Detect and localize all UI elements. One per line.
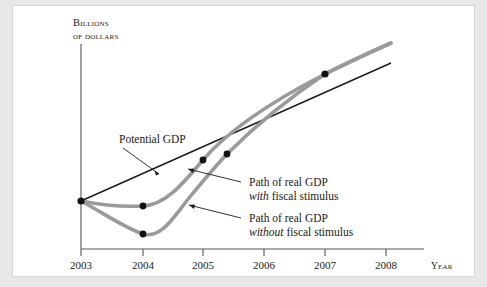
annotation-without-stimulus-line1: Path of real GDP [249, 212, 328, 224]
marker-2005-with-stimulus [200, 157, 207, 164]
annotation-without-stimulus-emphasis: without [249, 226, 284, 238]
annotation-without-stimulus-rest: fiscal stimulus [284, 226, 354, 238]
potential-gdp-line [81, 63, 391, 201]
real-gdp-with-stimulus-curve [81, 43, 391, 206]
annotation-with-stimulus-line2: with fiscal stimulus [249, 190, 339, 202]
y-axis-title-line2: of dollars [73, 31, 119, 41]
x-tick-label-2004: 2004 [132, 259, 155, 271]
x-tick-label-2006: 2006 [253, 259, 276, 271]
gdp-chart: Billions of dollars Year 2003 2004 2005 … [13, 6, 474, 276]
leader-arrow-without-stimulus [189, 205, 195, 210]
x-tick-label-2008: 2008 [375, 259, 398, 271]
marker-2003-origin [77, 197, 84, 204]
x-tick-label-2007: 2007 [314, 259, 337, 271]
x-axis-title: Year [431, 261, 453, 271]
annotation-with-stimulus-line1: Path of real GDP [249, 176, 328, 188]
marker-2005-without-stimulus [224, 151, 231, 158]
annotation-without-stimulus-line2: without fiscal stimulus [249, 226, 354, 238]
axis-group [81, 44, 424, 256]
marker-2004-with-stimulus [140, 203, 147, 210]
figure-container: Billions of dollars Year 2003 2004 2005 … [12, 5, 475, 277]
marker-2007-convergence [321, 70, 328, 77]
annotation-with-stimulus-emphasis: with [249, 190, 269, 202]
marker-2004-without-stimulus [140, 231, 147, 238]
page-background: Billions of dollars Year 2003 2004 2005 … [0, 0, 487, 287]
annotation-with-stimulus-rest: fiscal stimulus [269, 190, 339, 202]
leader-line-potential-gdp [123, 148, 159, 174]
annotation-potential-gdp: Potential GDP [119, 133, 186, 145]
y-axis-title-line1: Billions [73, 17, 109, 28]
leader-line-with-stimulus [188, 169, 241, 182]
x-tick-labels: 2003 2004 2005 2006 2007 2008 [70, 259, 398, 271]
x-tick-label-2003: 2003 [70, 259, 93, 271]
x-tick-label-2005: 2005 [192, 259, 215, 271]
leader-line-without-stimulus [189, 205, 241, 218]
